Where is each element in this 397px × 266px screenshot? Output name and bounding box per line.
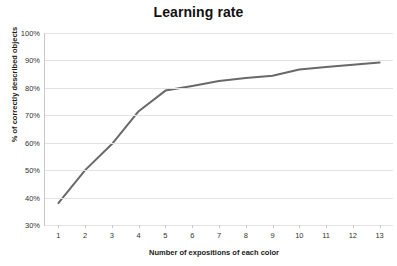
x-tick-label: 8 <box>244 231 248 240</box>
gridline <box>45 33 393 34</box>
x-tick-label: 10 <box>295 231 303 240</box>
x-tick <box>192 225 193 228</box>
x-tick-label: 5 <box>163 231 167 240</box>
x-tick-label: 13 <box>375 231 383 240</box>
x-axis-title: Number of expositions of each color <box>44 248 384 257</box>
x-tick-label: 2 <box>83 231 87 240</box>
x-tick-label: 11 <box>322 231 330 240</box>
x-tick <box>326 225 327 228</box>
x-tick-label: 6 <box>190 231 194 240</box>
x-tick <box>85 225 86 228</box>
y-tick-label: 100% <box>21 29 40 38</box>
y-tick-label: 50% <box>25 166 40 175</box>
y-tick-label: 30% <box>25 221 40 230</box>
gridline <box>45 143 393 144</box>
x-tick <box>112 225 113 228</box>
x-tick-label: 9 <box>270 231 274 240</box>
x-tick <box>58 225 59 228</box>
x-tick <box>246 225 247 228</box>
gridline <box>45 198 393 199</box>
y-tick-label: 60% <box>25 138 40 147</box>
x-tick <box>353 225 354 228</box>
x-tick <box>165 225 166 228</box>
x-tick <box>139 225 140 228</box>
x-tick <box>299 225 300 228</box>
gridline <box>45 115 393 116</box>
x-tick-label: 1 <box>56 231 60 240</box>
learning-rate-chart: Learning rate % of correctly described o… <box>0 0 397 266</box>
x-tick-label: 7 <box>217 231 221 240</box>
plot-area: 30%40%50%60%70%80%90%100%123456789101112… <box>44 33 393 226</box>
x-tick <box>219 225 220 228</box>
x-tick-label: 4 <box>137 231 141 240</box>
series-polyline <box>58 63 379 203</box>
x-tick-label: 3 <box>110 231 114 240</box>
x-tick <box>273 225 274 228</box>
y-tick-label: 40% <box>25 193 40 202</box>
x-tick-label: 12 <box>349 231 357 240</box>
y-tick-label: 90% <box>25 56 40 65</box>
x-tick <box>380 225 381 228</box>
y-tick-label: 80% <box>25 83 40 92</box>
gridline <box>45 60 393 61</box>
y-axis-title: % of correctly described objects <box>10 5 19 165</box>
gridline <box>45 170 393 171</box>
gridline <box>45 88 393 89</box>
series-line <box>45 33 393 225</box>
y-tick-label: 70% <box>25 111 40 120</box>
chart-title: Learning rate <box>0 4 397 20</box>
